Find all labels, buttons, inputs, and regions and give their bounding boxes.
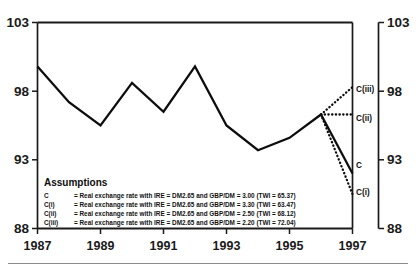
x-axis-label-1993: 1993 bbox=[213, 239, 241, 253]
curve-label-ciii: C(iii) bbox=[356, 85, 374, 94]
legend-text-ci: = Real exchange rate with IRE = DM2.65 a… bbox=[74, 201, 296, 209]
left-axis-label-103: 103 bbox=[6, 15, 29, 30]
left-axis-label-93: 93 bbox=[14, 152, 30, 167]
legend-key-c: C bbox=[44, 192, 49, 199]
curve-label-ci: C(i) bbox=[356, 188, 370, 197]
real-exchange-rate-line-chart: 103 98 93 88 103 98 93 88 1987 1989 1991… bbox=[0, 0, 416, 272]
legend-key-ci: C(i) bbox=[44, 201, 55, 209]
right-axis-label-103: 103 bbox=[387, 15, 410, 30]
legend-key-ciii: C(iii) bbox=[44, 219, 58, 227]
legend-text-cii: = Real exchange rate with IRE = DM2.65 a… bbox=[74, 210, 296, 218]
left-axis-label-98: 98 bbox=[14, 84, 30, 99]
x-axis-label-1991: 1991 bbox=[150, 239, 178, 253]
legend-title: Assumptions bbox=[44, 177, 108, 188]
x-axis-label-1995: 1995 bbox=[276, 239, 304, 253]
left-axis-label-88: 88 bbox=[14, 221, 30, 236]
right-axis-label-98: 98 bbox=[387, 84, 403, 99]
right-axis-label-88: 88 bbox=[387, 221, 403, 236]
curve-label-c: C bbox=[356, 161, 362, 170]
curve-label-cii: C(ii) bbox=[356, 114, 372, 123]
x-axis-label-1997: 1997 bbox=[339, 239, 367, 253]
right-axis-label-93: 93 bbox=[387, 152, 403, 167]
chart-background bbox=[0, 0, 416, 272]
legend-text-c: = Real exchange rate with IRE = DM2.65 a… bbox=[74, 192, 296, 200]
legend-text-ciii: = Real exchange rate with IRE = DM2.65 a… bbox=[74, 219, 296, 227]
legend-key-cii: C(ii) bbox=[44, 210, 56, 218]
x-axis-label-1989: 1989 bbox=[87, 239, 115, 253]
x-axis-label-1987: 1987 bbox=[24, 239, 52, 253]
chart-container: 103 98 93 88 103 98 93 88 1987 1989 1991… bbox=[0, 0, 416, 272]
